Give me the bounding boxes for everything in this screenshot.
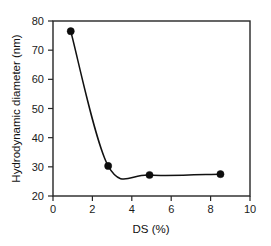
- y-tick-label-60: 60: [32, 73, 44, 85]
- y-tick-label-80: 80: [32, 15, 44, 27]
- data-series-line: [71, 31, 221, 179]
- figure-container: 80 70 60 50 40 30 20 0 2 4 6 8 10 DS (%: [0, 0, 271, 246]
- x-tick-label-8: 8: [208, 203, 214, 215]
- data-point: [217, 171, 224, 178]
- y-tick-label-40: 40: [32, 132, 44, 144]
- plot-frame: [53, 21, 250, 196]
- y-axis-title: Hydrodynamic diameter (nm): [10, 34, 22, 182]
- x-tick-label-6: 6: [168, 203, 174, 215]
- y-tick-label-20: 20: [32, 190, 44, 202]
- y-tick-label-70: 70: [32, 44, 44, 56]
- data-point: [67, 28, 74, 35]
- y-tick-label-50: 50: [32, 103, 44, 115]
- x-axis-ticks: [53, 196, 250, 201]
- x-tick-label-2: 2: [89, 203, 95, 215]
- data-series-markers: [67, 28, 224, 179]
- y-axis-tick-labels: 80 70 60 50 40 30 20: [32, 15, 44, 202]
- y-tick-label-30: 30: [32, 161, 44, 173]
- x-axis-tick-labels: 0 2 4 6 8 10: [50, 203, 256, 215]
- data-point: [105, 162, 112, 169]
- chart-canvas: 80 70 60 50 40 30 20 0 2 4 6 8 10 DS (%: [0, 0, 271, 246]
- x-axis-title: DS (%): [132, 223, 169, 235]
- data-point: [146, 171, 153, 178]
- y-axis-ticks: [48, 21, 53, 196]
- x-tick-label-10: 10: [244, 203, 256, 215]
- x-tick-label-0: 0: [50, 203, 56, 215]
- x-tick-label-4: 4: [129, 203, 135, 215]
